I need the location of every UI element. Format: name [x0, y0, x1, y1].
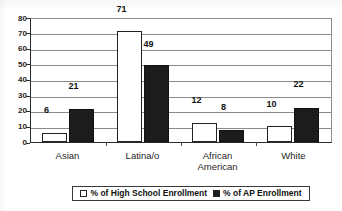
bar-asian-high-school[interactable] [42, 133, 67, 142]
bar-white-ap[interactable] [294, 108, 319, 142]
x-axis-label-african-american: African American [180, 150, 255, 172]
legend-entry-ap[interactable]: % of AP Enrollment [213, 189, 301, 198]
data-label-african-american-high-school: 12 [184, 96, 209, 105]
data-label-latina-ap: 49 [136, 40, 161, 49]
y-tick-label-40: 40 [3, 76, 27, 84]
bar-latina-ap[interactable] [144, 65, 169, 142]
x-axis-separator [181, 142, 182, 146]
chart-legend: % of High School Enrollment % of AP Enro… [72, 186, 310, 201]
y-tick-label-10: 10 [3, 123, 27, 131]
y-tick-label-70: 70 [3, 30, 27, 38]
legend-entry-high-school[interactable]: % of High School Enrollment [80, 189, 207, 198]
x-axis-label-asian: Asian [30, 150, 105, 161]
y-tick-label-50: 50 [3, 61, 27, 69]
bar-african-american-ap[interactable] [219, 130, 244, 143]
data-label-white-high-school: 10 [259, 100, 284, 109]
bar-chart: 80 70 60 50 40 30 20 10 0 [0, 0, 342, 211]
y-tick-label-0: 0 [3, 139, 27, 147]
white-square-icon [80, 190, 87, 197]
x-axis-separator [106, 142, 107, 146]
data-label-asian-ap: 21 [61, 82, 86, 91]
data-label-asian-high-school: 6 [34, 106, 59, 115]
bar-group-african-american [181, 19, 256, 142]
bar-african-american-high-school[interactable] [192, 123, 217, 142]
x-axis-separator [256, 142, 257, 146]
bar-asian-ap[interactable] [69, 109, 94, 142]
bar-group-latina [106, 19, 181, 142]
legend-label-ap: % of AP Enrollment [223, 189, 301, 198]
x-axis-label-latina: Latina/o [105, 150, 180, 161]
black-square-icon [213, 190, 220, 197]
y-tick-label-80: 80 [3, 15, 27, 23]
data-label-latina-high-school: 71 [109, 5, 134, 14]
data-label-african-american-ap: 8 [211, 103, 236, 112]
legend-label-high-school: % of High School Enrollment [90, 189, 207, 198]
bar-white-high-school[interactable] [267, 126, 292, 142]
y-tick-mark [26, 143, 30, 144]
y-tick-label-20: 20 [3, 107, 27, 115]
y-tick-label-60: 60 [3, 45, 27, 53]
data-label-white-ap: 22 [286, 80, 311, 89]
x-axis-label-white: White [255, 150, 332, 161]
y-tick-label-30: 30 [3, 92, 27, 100]
